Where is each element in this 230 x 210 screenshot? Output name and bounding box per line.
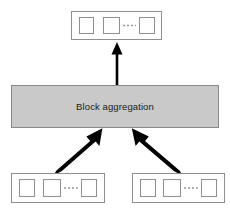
block-aggregation-diagram: Block aggregation [0, 0, 230, 210]
input-left-cell-2 [44, 180, 61, 197]
arrow-input-left-to-aggregation [54, 128, 103, 175]
aggregation-block-rect [12, 86, 219, 128]
input-left-cell-1 [20, 180, 35, 197]
input-block-group-right[interactable] [133, 174, 225, 203]
arrow-aggregation-to-output [112, 42, 123, 85]
arrow-input-right-to-aggregation [132, 128, 182, 175]
output-cell-1 [80, 18, 94, 34]
input-right-cell-1 [141, 180, 156, 197]
input-right-cell-2 [164, 180, 181, 197]
diagram-canvas [0, 0, 230, 210]
arrow-up-right-icon [54, 128, 103, 175]
arrow-up-left-icon [132, 128, 182, 175]
output-cell-n [140, 18, 155, 34]
output-block-group[interactable] [72, 12, 162, 40]
input-right-cell-n [202, 180, 217, 197]
arrow-up-icon [112, 42, 123, 85]
aggregation-block[interactable] [12, 86, 219, 128]
output-cell-2 [104, 18, 120, 34]
input-block-group-left[interactable] [12, 174, 105, 203]
input-left-cell-n [82, 180, 97, 197]
